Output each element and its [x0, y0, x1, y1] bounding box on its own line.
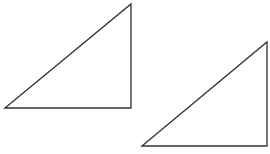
diagram-canvas [0, 0, 270, 154]
triangle-1 [5, 4, 131, 108]
triangle-2 [142, 42, 267, 146]
